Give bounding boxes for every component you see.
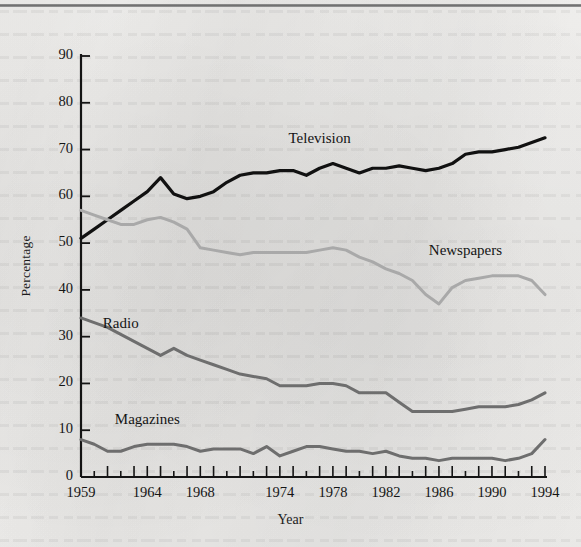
series-label-newspapers: Newspapers	[429, 242, 502, 259]
x-tick-label: 1978	[303, 484, 363, 501]
x-axis-title: Year	[0, 512, 581, 528]
y-tick-label: 30	[39, 327, 73, 344]
series-label-television: Television	[288, 130, 350, 147]
x-tick-label: 1974	[250, 484, 310, 501]
x-tick-label: 1964	[117, 484, 177, 501]
series-line-radio	[81, 318, 545, 412]
series-label-radio: Radio	[103, 315, 139, 332]
x-tick-label: 1986	[409, 484, 469, 501]
x-tick-label: 1982	[356, 484, 416, 501]
series-line-magazines	[81, 440, 545, 461]
x-tick-label: 1994	[515, 484, 575, 501]
y-tick-label: 90	[39, 46, 73, 63]
y-tick-label: 70	[39, 140, 73, 157]
y-tick-label: 0	[39, 467, 73, 484]
y-tick-label: 50	[39, 233, 73, 250]
x-tick-label: 1959	[51, 484, 111, 501]
x-tick-label: 1968	[170, 484, 230, 501]
y-tick-label: 10	[39, 420, 73, 437]
y-tick-label: 20	[39, 373, 73, 390]
y-tick-label: 60	[39, 186, 73, 203]
line-chart	[0, 0, 581, 547]
x-tick-label: 1990	[462, 484, 522, 501]
series-label-magazines: Magazines	[115, 411, 180, 428]
series-line-television	[81, 138, 545, 239]
y-tick-label: 40	[39, 280, 73, 297]
y-axis-title: Percentage	[18, 206, 34, 326]
y-tick-label: 80	[39, 93, 73, 110]
